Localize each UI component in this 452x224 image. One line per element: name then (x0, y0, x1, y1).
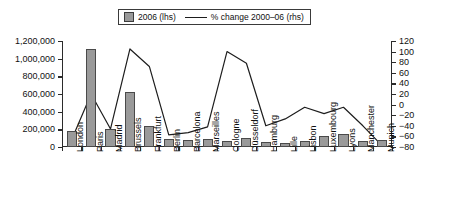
x-axis-category-label: London (75, 122, 85, 152)
x-axis-category-label: Lille (289, 136, 299, 152)
legend-line-icon (185, 17, 207, 18)
y-axis-left-tick-label: 400,000 (22, 107, 55, 117)
x-axis-tick (256, 146, 257, 151)
y-axis-right-tick (391, 62, 396, 63)
y-axis-left-tick-label: 1,200,000 (15, 36, 55, 46)
x-axis-tick (373, 146, 374, 151)
y-axis-right-tick-label: −20 (399, 110, 414, 120)
x-axis-category-label: Lyons (347, 128, 357, 152)
y-axis-left-tick (58, 41, 63, 42)
x-axis-tick (334, 146, 335, 151)
y-axis-left-tick-label: 200,000 (22, 124, 55, 134)
x-axis-category-label: Munich (386, 123, 396, 152)
y-axis-left-tick-label: 1,000,000 (15, 54, 55, 64)
x-axis-tick (62, 146, 63, 151)
legend-swatch-icon (124, 12, 134, 22)
plot-area: 0200,000400,000600,000800,0001,000,0001,… (62, 41, 392, 147)
y-axis-right-tick (391, 105, 396, 106)
legend-label-bar-series: 2006 (lhs) (138, 13, 176, 22)
y-axis-right-tick-label: 120 (399, 36, 414, 46)
x-axis-tick (178, 146, 179, 151)
x-axis-category-label: Madrid (114, 124, 124, 152)
y-axis-right-tick (391, 83, 396, 84)
x-axis-tick (101, 146, 102, 151)
x-axis-tick (353, 146, 354, 151)
x-axis-tick (295, 146, 296, 151)
x-axis-tick (217, 146, 218, 151)
y-axis-right-tick-label: 100 (399, 47, 414, 57)
x-axis-category-label: Marseilles (211, 111, 221, 152)
x-axis-category-label: Barcelona (192, 111, 202, 152)
y-axis-right-tick-label: 0 (399, 100, 404, 110)
x-axis-tick (314, 146, 315, 151)
y-axis-right-tick (391, 115, 396, 116)
y-axis-right-tick (391, 41, 396, 42)
x-axis-category-label: Düsseldorf (250, 109, 260, 152)
legend-item-line-series: % change 2000–06 (rhs) (185, 13, 304, 22)
x-axis-category-label: Berlin (172, 129, 182, 152)
y-axis-right-tick-label: 80 (399, 57, 409, 67)
legend-item-bar-series: 2006 (lhs) (124, 12, 176, 22)
y-axis-right-tick (391, 73, 396, 74)
y-axis-left-tick (58, 94, 63, 95)
x-axis-tick (237, 146, 238, 151)
y-axis-left-tick-label: 0 (50, 142, 55, 152)
x-axis-tick (276, 146, 277, 151)
y-axis-left-tick (58, 59, 63, 60)
y-axis-left-tick-label: 800,000 (22, 71, 55, 81)
y-axis-right-tick-label: −40 (399, 121, 414, 131)
x-axis-tick (198, 146, 199, 151)
y-axis-right-tick (391, 94, 396, 95)
y-axis-right-tick-label: −80 (399, 142, 414, 152)
x-axis-category-label: Lisbon (308, 125, 318, 152)
x-axis-category-label: Brussels (133, 117, 143, 152)
y-axis-right-tick-label: −60 (399, 131, 414, 141)
y-axis-right-tick-label: 40 (399, 78, 409, 88)
x-axis-category-label: Luxembourg (328, 102, 338, 152)
x-axis-category-label: Paris (95, 131, 105, 152)
x-axis-category-label: Manchester (366, 105, 376, 152)
y-axis-right-tick-label: 20 (399, 89, 409, 99)
x-axis-category-label: Cologne (231, 118, 241, 152)
x-axis-category-label: Frankfurt (153, 116, 163, 152)
y-axis-right-tick-label: 60 (399, 68, 409, 78)
y-axis-left-tick-label: 600,000 (22, 89, 55, 99)
chart-container: 2006 (lhs) % change 2000–06 (rhs) 0200,0… (0, 0, 452, 224)
y-axis-left-tick (58, 76, 63, 77)
x-axis-tick (120, 146, 121, 151)
x-axis-tick (81, 146, 82, 151)
x-axis-tick (159, 146, 160, 151)
y-axis-left-tick (58, 129, 63, 130)
legend-label-line-series: % change 2000–06 (rhs) (211, 13, 304, 22)
y-axis-right-tick (391, 52, 396, 53)
x-axis-category-label: Hamburg (269, 115, 279, 152)
y-axis-left-tick (58, 112, 63, 113)
chart-legend: 2006 (lhs) % change 2000–06 (rhs) (118, 9, 311, 25)
x-axis-tick (140, 146, 141, 151)
